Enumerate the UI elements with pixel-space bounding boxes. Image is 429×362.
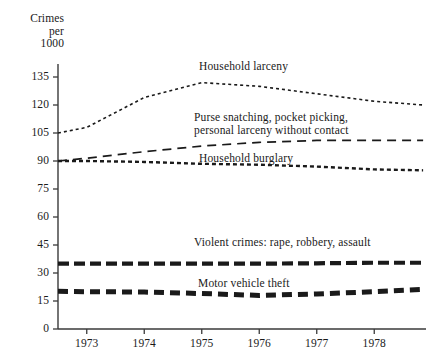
series-label-violent-crimes: Violent crimes: rape, robbery, assault [194, 236, 371, 249]
y-axis-tick-label: 120 [8, 98, 49, 110]
y-axis-tick-label: 45 [8, 238, 49, 250]
x-axis-tick-label: 1978 [344, 337, 404, 349]
y-axis-tick-label: 75 [8, 182, 49, 194]
x-axis-tick-label: 1974 [114, 337, 174, 349]
series-line-motor-vehicle-theft [58, 289, 423, 295]
plot-area [0, 0, 429, 362]
crime-rates-line-chart: Crimes per 1000 015304560759010512013519… [0, 0, 429, 362]
x-axis-tick-label: 1976 [229, 337, 289, 349]
y-axis-tick-label: 30 [8, 266, 49, 278]
series-label-household-burglary: Household burglary [199, 152, 293, 165]
y-axis-tick-label: 105 [8, 126, 49, 138]
y-axis-tick-label: 15 [8, 294, 49, 306]
series-line-violent-crimes [58, 263, 423, 264]
y-axis-tick-label: 135 [8, 70, 49, 82]
y-axis-tick-label: 90 [8, 154, 49, 166]
y-axis-tick-label: 0 [8, 322, 49, 334]
x-axis-tick-label: 1973 [57, 337, 117, 349]
x-axis-tick-label: 1977 [287, 337, 347, 349]
series-label-motor-vehicle-theft: Motor vehicle theft [198, 277, 290, 290]
series-label-household-larceny: Household larceny [199, 60, 288, 73]
series-label-purse-snatching: Purse snatching, pocket picking, persona… [194, 111, 349, 137]
y-axis-tick-label: 60 [8, 210, 49, 222]
x-axis-tick-label: 1975 [172, 337, 232, 349]
